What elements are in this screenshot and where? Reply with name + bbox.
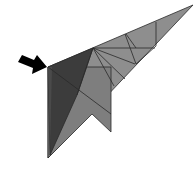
push-arrow-icon [18,55,47,74]
origami-diagram [0,0,194,171]
origami-figure [0,0,194,171]
